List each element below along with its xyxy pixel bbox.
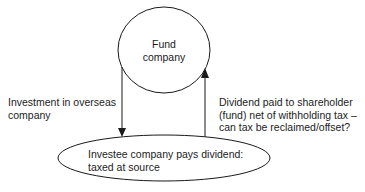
fund-label-line-1: Fund	[134, 38, 194, 51]
dividend-edge-label: Dividend paid to shareholder (fund) net …	[219, 96, 357, 134]
investee-label-line-1: Investee company pays dividend:	[88, 148, 243, 161]
investee-label-line-2: taxed at source	[88, 161, 243, 174]
investee-company-label: Investee company pays dividend: taxed at…	[88, 148, 243, 173]
investment-edge-label: Investment in overseas company	[8, 96, 116, 121]
investment-label-line-2: company	[8, 109, 116, 122]
dividend-label-line-3: can tax be reclaimed/offset?	[219, 121, 357, 134]
dividend-label-line-2: (fund) net of withholding tax –	[219, 109, 357, 122]
dividend-label-line-1: Dividend paid to shareholder	[219, 96, 357, 109]
fund-label-line-2: company	[134, 51, 194, 64]
investment-label-line-1: Investment in overseas	[8, 96, 116, 109]
dividend-arrowhead-icon	[201, 68, 209, 78]
fund-company-label: Fund company	[134, 38, 194, 63]
investment-arrowhead-icon	[118, 128, 126, 137]
